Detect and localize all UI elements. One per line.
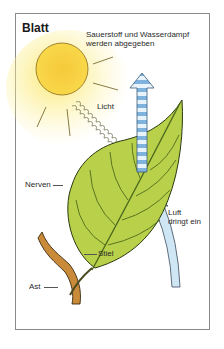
light-label: Licht bbox=[97, 102, 114, 111]
leaf-illustration bbox=[0, 0, 224, 349]
stalk-leader-line bbox=[84, 254, 97, 255]
sun-icon bbox=[36, 43, 88, 95]
branch bbox=[38, 232, 81, 304]
output-label-line1: Sauerstoff und Wasserdampf bbox=[86, 30, 189, 39]
branch-leader-line bbox=[44, 287, 58, 288]
output-label-line2: werden abgegeben bbox=[86, 39, 155, 48]
stalk-label: Stiel bbox=[98, 249, 114, 258]
air-label-line1: Luft bbox=[168, 208, 181, 217]
veins-label: Nerven bbox=[25, 180, 51, 189]
veins-leader-line bbox=[53, 185, 63, 186]
air-label-line2: dringt ein bbox=[168, 217, 201, 226]
diagram-title: Blatt bbox=[22, 21, 49, 35]
branch-label: Ast bbox=[29, 282, 41, 291]
